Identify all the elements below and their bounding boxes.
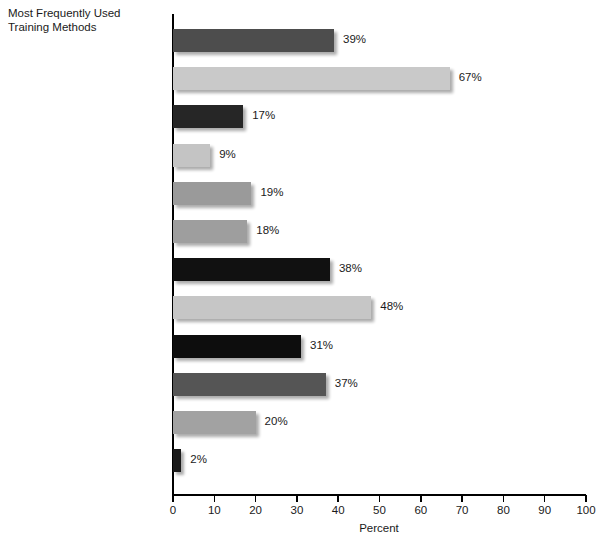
- x-axis-tick-label: 20: [236, 504, 276, 516]
- bar-wrapper: [173, 67, 450, 90]
- bar: [173, 182, 251, 205]
- x-axis-tick: [420, 495, 422, 502]
- x-axis-tick-label: 50: [360, 504, 400, 516]
- bar: [173, 296, 371, 319]
- bar-wrapper: [173, 105, 243, 128]
- bar-wrapper: [173, 182, 251, 205]
- bar-value-label: 20%: [265, 415, 288, 428]
- bar-wrapper: [173, 220, 247, 243]
- bar-value-label: 37%: [335, 377, 358, 390]
- bar: [173, 105, 243, 128]
- x-axis-tick: [585, 495, 587, 502]
- x-axis-tick-label: 60: [401, 504, 441, 516]
- bar-value-label: 31%: [310, 339, 333, 352]
- x-axis-tick: [337, 495, 339, 502]
- bar-chart: Most Frequently Used Training Methods Ca…: [0, 0, 608, 542]
- bar: [173, 335, 301, 358]
- bar-value-label: 48%: [380, 300, 403, 313]
- bar: [173, 220, 247, 243]
- bar-value-label: 18%: [256, 224, 279, 237]
- bar-value-label: 39%: [343, 33, 366, 46]
- x-axis-tick-label: 90: [525, 504, 565, 516]
- bar-value-label: 9%: [219, 148, 236, 161]
- x-axis-tick-label: 10: [194, 504, 234, 516]
- bar: [173, 258, 330, 281]
- x-axis-tick: [461, 495, 463, 502]
- bar-wrapper: [173, 411, 256, 434]
- x-axis-tick: [172, 495, 174, 502]
- bar: [173, 449, 181, 472]
- bar: [173, 411, 256, 434]
- x-axis-tick-label: 100: [566, 504, 606, 516]
- bar-value-label: 67%: [459, 71, 482, 84]
- x-axis-tick: [379, 495, 381, 502]
- x-axis-tick: [255, 495, 257, 502]
- bar-value-label: 38%: [339, 262, 362, 275]
- x-axis-tick: [214, 495, 216, 502]
- x-axis-tick: [296, 495, 298, 502]
- x-axis-tick-label: 0: [153, 504, 193, 516]
- x-axis-tick-label: 40: [318, 504, 358, 516]
- x-axis-tick: [544, 495, 546, 502]
- plot-area: Case studies39%Classroom w/ instructor, …: [0, 0, 608, 542]
- x-axis-tick-label: 30: [277, 504, 317, 516]
- bar: [173, 373, 326, 396]
- bar-value-label: 17%: [252, 109, 275, 122]
- bar-wrapper: [173, 335, 301, 358]
- bar-wrapper: [173, 29, 334, 52]
- x-axis-tick-label: 70: [442, 504, 482, 516]
- bar: [173, 67, 450, 90]
- x-axis-title: Percent: [172, 522, 586, 534]
- bar-wrapper: [173, 296, 371, 319]
- bar-wrapper: [173, 258, 330, 281]
- bar: [173, 29, 334, 52]
- bar-wrapper: [173, 144, 210, 167]
- x-axis-tick: [503, 495, 505, 502]
- bar: [173, 144, 210, 167]
- bar-wrapper: [173, 373, 326, 396]
- bar-value-label: 2%: [190, 453, 207, 466]
- bar-value-label: 19%: [260, 186, 283, 199]
- bar-wrapper: [173, 449, 181, 472]
- x-axis-tick-label: 80: [483, 504, 523, 516]
